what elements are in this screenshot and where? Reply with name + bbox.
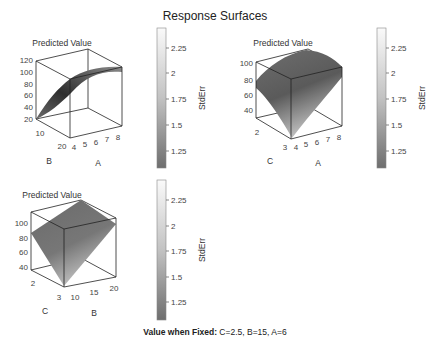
z-axis-title: Predicted Value	[32, 38, 92, 48]
svg-text:1.25: 1.25	[171, 147, 187, 156]
response-surfaces-figure: Response Surfaces Predicted Value 120 10…	[0, 0, 430, 340]
svg-text:8: 8	[116, 133, 121, 142]
y-axis-ticks: 2 3	[31, 279, 62, 302]
svg-text:3: 3	[283, 143, 288, 152]
svg-text:40: 40	[244, 106, 253, 115]
fixed-values-label: Value when Fixed:	[143, 327, 217, 337]
svg-text:20: 20	[110, 284, 119, 293]
svg-text:2.25: 2.25	[391, 44, 407, 53]
z-axis-ticks: 120 100 80 60 40 20	[20, 56, 34, 124]
colorbar-3: 2.25 2 1.75 1.5 1.25 StdErr	[157, 180, 207, 320]
svg-text:1.5: 1.5	[171, 273, 183, 282]
fixed-values-text: C=2.5, B=15, A=6	[219, 327, 286, 337]
response-surface	[31, 200, 116, 286]
svg-text:60: 60	[24, 91, 33, 100]
svg-text:2.25: 2.25	[171, 44, 187, 53]
z-axis-title: Predicted Value	[22, 190, 82, 200]
response-surface	[36, 67, 122, 119]
svg-text:2: 2	[255, 128, 260, 137]
figure-title: Response Surfaces	[163, 9, 268, 23]
y-axis-label: C	[42, 306, 48, 316]
svg-text:80: 80	[19, 234, 28, 243]
svg-text:40: 40	[24, 103, 33, 112]
cube-top-back-edges	[36, 49, 122, 67]
svg-text:1.75: 1.75	[171, 95, 187, 104]
y-axis-ticks: 10 20	[36, 129, 67, 151]
svg-text:7: 7	[326, 135, 331, 144]
surface-plot-2: Predicted Value 100 80 60 40 2 3 C 4 5 6…	[240, 38, 342, 168]
svg-text:1.75: 1.75	[391, 95, 407, 104]
svg-text:2: 2	[171, 222, 176, 231]
svg-text:1.5: 1.5	[391, 121, 403, 130]
svg-text:4: 4	[294, 143, 299, 152]
x-axis-ticks: 10 15 20	[71, 284, 119, 302]
svg-text:5: 5	[304, 140, 309, 149]
svg-text:100: 100	[20, 68, 34, 77]
response-surface	[256, 50, 342, 138]
svg-text:4: 4	[72, 143, 77, 152]
svg-text:2: 2	[31, 279, 36, 288]
svg-text:120: 120	[20, 56, 34, 65]
svg-text:2: 2	[171, 69, 176, 78]
svg-text:8: 8	[337, 133, 342, 142]
y-axis-label: C	[267, 156, 273, 166]
svg-text:5: 5	[83, 140, 88, 149]
colorbar-label: StdErr	[417, 86, 427, 110]
colorbar-2: 2.25 2 1.75 1.5 1.25 StdErr	[377, 28, 427, 168]
svg-text:60: 60	[244, 91, 253, 100]
svg-text:15: 15	[90, 288, 99, 297]
svg-text:100: 100	[15, 219, 29, 228]
svg-text:10: 10	[71, 293, 80, 302]
svg-text:1.5: 1.5	[171, 121, 183, 130]
z-axis-ticks: 100 80 60 40	[15, 219, 29, 272]
y-axis-ticks: 2 3	[255, 128, 288, 152]
svg-text:2: 2	[391, 69, 396, 78]
svg-text:100: 100	[240, 59, 254, 68]
svg-text:1.75: 1.75	[171, 247, 187, 256]
svg-text:10: 10	[36, 129, 45, 138]
x-axis-label: B	[91, 308, 97, 318]
svg-text:1.25: 1.25	[171, 298, 187, 307]
svg-text:20: 20	[24, 115, 33, 124]
svg-text:20: 20	[58, 142, 67, 151]
colorbar-label: StdErr	[197, 238, 207, 262]
svg-text:40: 40	[19, 263, 28, 272]
svg-text:2.25: 2.25	[171, 196, 187, 205]
y-axis-label: B	[46, 156, 52, 166]
surface-plot-1: Predicted Value 120 100 80 60 40 20 10 2…	[20, 38, 122, 168]
z-axis-title: Predicted Value	[253, 38, 313, 48]
svg-text:6: 6	[94, 138, 99, 147]
surface-plot-3: Predicted Value 100 80 60 40 2 3 C 10 15…	[15, 190, 119, 318]
colorbar-1: 2.25 2 1.75 1.5 1.25 StdErr	[157, 28, 207, 168]
x-axis-label: A	[315, 158, 321, 168]
x-axis-label: A	[95, 158, 101, 168]
svg-text:60: 60	[19, 248, 28, 257]
svg-text:80: 80	[24, 80, 33, 89]
svg-text:7: 7	[105, 135, 110, 144]
svg-text:80: 80	[244, 76, 253, 85]
svg-text:6: 6	[315, 138, 320, 147]
z-axis-ticks: 100 80 60 40	[240, 59, 254, 115]
fixed-values-caption: Value when Fixed: C=2.5, B=15, A=6	[0, 327, 430, 337]
colorbar-label: StdErr	[197, 86, 207, 110]
svg-text:1.25: 1.25	[391, 147, 407, 156]
svg-text:3: 3	[57, 293, 62, 302]
x-axis-ticks: 4 5 6 7 8	[294, 133, 342, 152]
